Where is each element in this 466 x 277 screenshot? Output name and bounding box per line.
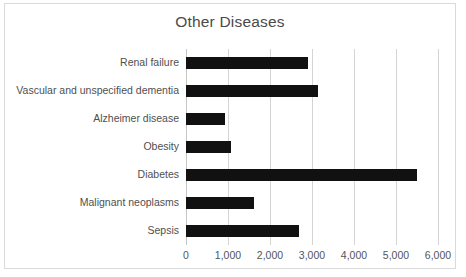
category-label: Sepsis bbox=[147, 224, 179, 237]
category-label: Obesity bbox=[143, 140, 179, 153]
bar-row: Sepsis bbox=[186, 217, 438, 245]
bar-row: Alzheimer disease bbox=[186, 105, 438, 133]
chart-title: Other Diseases bbox=[5, 13, 455, 31]
gridline bbox=[438, 49, 439, 245]
bar-row: Obesity bbox=[186, 133, 438, 161]
bar bbox=[186, 169, 417, 181]
x-tick-label: 3,000 bbox=[299, 249, 325, 261]
bar-row: Renal failure bbox=[186, 49, 438, 77]
category-label: Alzheimer disease bbox=[93, 112, 179, 125]
bar bbox=[186, 197, 254, 209]
category-label: Vascular and unspecified dementia bbox=[16, 84, 179, 97]
bar bbox=[186, 141, 231, 153]
x-tick-label: 4,000 bbox=[341, 249, 367, 261]
bar-row: Vascular and unspecified dementia bbox=[186, 77, 438, 105]
category-label: Renal failure bbox=[120, 56, 179, 69]
x-tick-label: 0 bbox=[183, 249, 189, 261]
x-tick-label: 2,000 bbox=[257, 249, 283, 261]
bar-row: Diabetes bbox=[186, 161, 438, 189]
x-tick-label: 6,000 bbox=[425, 249, 451, 261]
bar bbox=[186, 225, 299, 237]
plot-area: Renal failureVascular and unspecified de… bbox=[186, 49, 438, 245]
x-tick-label: 5,000 bbox=[383, 249, 409, 261]
x-tick-label: 1,000 bbox=[215, 249, 241, 261]
category-label: Malignant neoplasms bbox=[80, 196, 179, 209]
category-label: Diabetes bbox=[138, 168, 179, 181]
bar-row: Malignant neoplasms bbox=[186, 189, 438, 217]
bar bbox=[186, 85, 318, 97]
chart-container: Other Diseases Renal failureVascular and… bbox=[4, 3, 456, 269]
bar bbox=[186, 113, 225, 125]
bar bbox=[186, 57, 308, 69]
